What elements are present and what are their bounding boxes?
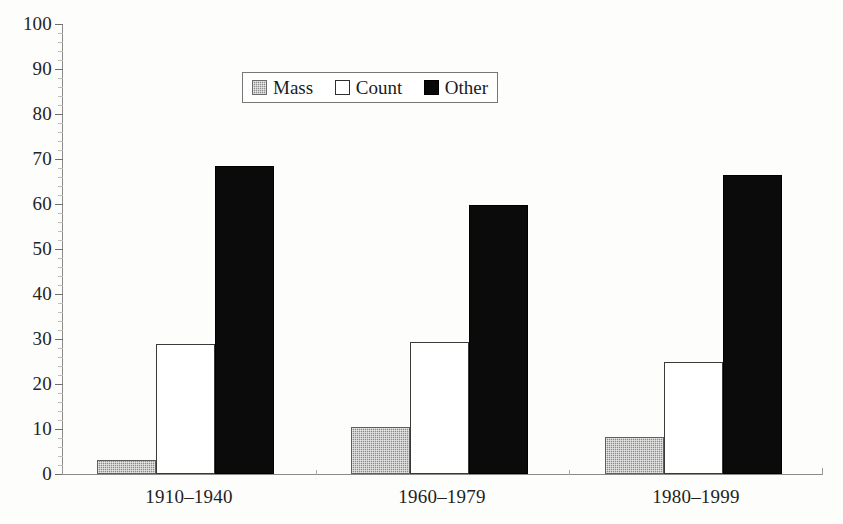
y-axis-tick bbox=[55, 24, 63, 25]
y-axis-minor-tick bbox=[58, 177, 63, 178]
y-axis-minor-tick bbox=[58, 168, 63, 169]
swatch-other-solid-black-icon bbox=[424, 80, 439, 95]
x-axis-left-cap bbox=[62, 468, 63, 475]
y-axis-tick-label: 70 bbox=[6, 149, 52, 168]
bar-chart: 0102030405060708090100 1910–19401960–197… bbox=[0, 0, 843, 524]
y-axis-minor-tick bbox=[58, 240, 63, 241]
bar-other-2 bbox=[723, 175, 782, 474]
y-axis-minor-tick bbox=[58, 303, 63, 304]
y-axis-minor-tick bbox=[58, 105, 63, 106]
y-axis-minor-tick bbox=[58, 393, 63, 394]
y-axis-minor-tick bbox=[58, 447, 63, 448]
bar-mass-1 bbox=[351, 427, 410, 474]
x-axis-tick-label: 1910–1940 bbox=[99, 486, 279, 508]
y-axis-minor-tick bbox=[58, 132, 63, 133]
x-axis-group-separator bbox=[316, 470, 317, 475]
y-axis-tick-label: 50 bbox=[6, 239, 52, 258]
legend-label: Mass bbox=[273, 78, 313, 97]
y-axis-tick-label: 90 bbox=[6, 59, 52, 78]
y-axis-minor-tick bbox=[58, 438, 63, 439]
y-axis-tick bbox=[55, 294, 63, 295]
y-axis-tick bbox=[55, 339, 63, 340]
x-axis-line bbox=[62, 474, 823, 475]
y-axis-tick-label: 30 bbox=[6, 329, 52, 348]
y-axis-tick bbox=[55, 249, 63, 250]
legend-label: Other bbox=[445, 78, 488, 97]
y-axis-minor-tick bbox=[58, 42, 63, 43]
y-axis-tick bbox=[55, 429, 63, 430]
y-axis-minor-tick bbox=[58, 285, 63, 286]
y-axis-tick-label: 20 bbox=[6, 374, 52, 393]
bar-other-0 bbox=[215, 166, 274, 474]
swatch-mass-dotted-gray-icon bbox=[252, 80, 267, 95]
bar-count-2 bbox=[664, 362, 723, 474]
y-axis-minor-tick bbox=[58, 186, 63, 187]
legend-entry-mass[interactable]: Mass bbox=[252, 78, 313, 97]
y-axis-minor-tick bbox=[58, 456, 63, 457]
bar-mass-2 bbox=[605, 437, 664, 474]
y-axis-minor-tick bbox=[58, 87, 63, 88]
bar-mass-0 bbox=[97, 460, 156, 474]
legend-entry-other[interactable]: Other bbox=[424, 78, 488, 97]
y-axis-minor-tick bbox=[58, 375, 63, 376]
x-axis-right-cap bbox=[822, 468, 823, 475]
y-axis-minor-tick bbox=[58, 330, 63, 331]
y-axis-minor-tick bbox=[58, 420, 63, 421]
y-axis-tick-label: 100 bbox=[6, 14, 52, 33]
y-axis-minor-tick bbox=[58, 366, 63, 367]
y-axis-minor-tick bbox=[58, 258, 63, 259]
y-axis-tick bbox=[55, 384, 63, 385]
bar-count-1 bbox=[410, 342, 469, 474]
y-axis-minor-tick bbox=[58, 213, 63, 214]
y-axis-tick bbox=[55, 159, 63, 160]
y-axis-minor-tick bbox=[58, 357, 63, 358]
y-axis-tick-label: 0 bbox=[6, 464, 52, 483]
y-axis-minor-tick bbox=[58, 33, 63, 34]
y-axis-minor-tick bbox=[58, 195, 63, 196]
bar-other-1 bbox=[469, 205, 528, 474]
y-axis-minor-tick bbox=[58, 60, 63, 61]
y-axis-minor-tick bbox=[58, 123, 63, 124]
y-axis-tick bbox=[55, 69, 63, 70]
y-axis-tick-label: 40 bbox=[6, 284, 52, 303]
y-axis-minor-tick bbox=[58, 51, 63, 52]
chart-legend: MassCountOther bbox=[242, 72, 498, 103]
y-axis-minor-tick bbox=[58, 222, 63, 223]
y-axis-minor-tick bbox=[58, 267, 63, 268]
y-axis-tick bbox=[55, 204, 63, 205]
y-axis-tick bbox=[55, 114, 63, 115]
x-axis-group-separator bbox=[569, 470, 570, 475]
y-axis-minor-tick bbox=[58, 348, 63, 349]
bar-count-0 bbox=[156, 344, 215, 474]
y-axis-minor-tick bbox=[58, 465, 63, 466]
y-axis-minor-tick bbox=[58, 231, 63, 232]
y-axis-minor-tick bbox=[58, 78, 63, 79]
legend-label: Count bbox=[356, 78, 402, 97]
x-axis-tick-label: 1960–1979 bbox=[352, 486, 532, 508]
swatch-count-open-white-icon bbox=[335, 80, 350, 95]
y-axis-minor-tick bbox=[58, 141, 63, 142]
y-axis-minor-tick bbox=[58, 150, 63, 151]
y-axis-minor-tick bbox=[58, 96, 63, 97]
y-axis-minor-tick bbox=[58, 321, 63, 322]
y-axis-minor-tick bbox=[58, 276, 63, 277]
x-axis-tick-label: 1980–1999 bbox=[606, 486, 786, 508]
y-axis-minor-tick bbox=[58, 402, 63, 403]
y-axis-tick-label: 80 bbox=[6, 104, 52, 123]
legend-entry-count[interactable]: Count bbox=[335, 78, 402, 97]
y-axis-tick-label: 60 bbox=[6, 194, 52, 213]
y-axis-minor-tick bbox=[58, 312, 63, 313]
y-axis-labels: 0102030405060708090100 bbox=[0, 0, 52, 524]
y-axis-tick-label: 10 bbox=[6, 419, 52, 438]
y-axis-minor-tick bbox=[58, 411, 63, 412]
